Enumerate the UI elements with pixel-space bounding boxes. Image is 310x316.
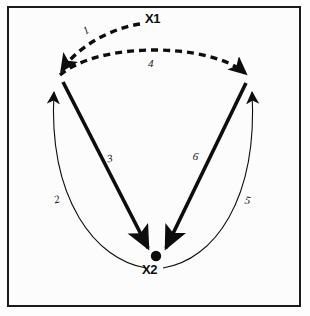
- edge-label-3: 3: [106, 152, 114, 165]
- figure-root: X1 X2 1 2 3 4 5 6: [0, 0, 310, 316]
- edge-5-thin-arrow: [163, 92, 253, 268]
- edge-3-thick-arrow: [63, 82, 148, 248]
- edge-6-thick-arrow: [166, 83, 246, 248]
- edge-label-4: 4: [148, 57, 154, 69]
- node-label-x2: X2: [142, 262, 157, 277]
- node-label-x1: X1: [145, 11, 160, 26]
- x2-node-dot: [151, 251, 161, 261]
- edge-1-dashed-arrow: [62, 24, 140, 70]
- edge-2-thin-arrow: [53, 92, 146, 268]
